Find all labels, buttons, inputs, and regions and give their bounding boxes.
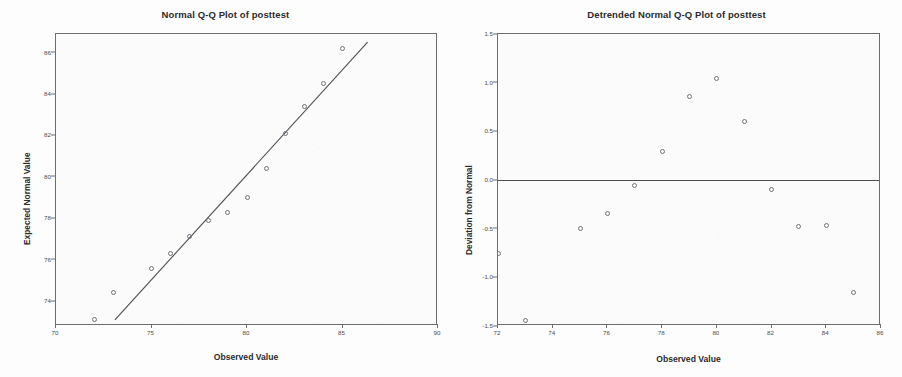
y-tick-label: -0.5	[471, 224, 493, 231]
y-tick-mark	[51, 134, 55, 135]
x-tick-label: 78	[651, 329, 671, 336]
x-tick-mark	[606, 324, 607, 328]
data-point	[851, 290, 856, 295]
y-tick-label: 86	[33, 48, 51, 55]
data-point	[283, 131, 288, 136]
y-tick-label: 80	[33, 172, 51, 179]
data-point	[523, 318, 528, 323]
chart-panel-normal-qq: Normal Q-Q Plot of posttest Expected Nor…	[0, 0, 451, 377]
data-point	[824, 223, 829, 228]
y-tick-mark	[493, 179, 497, 180]
x-tick-label: 74	[542, 329, 562, 336]
y-tick-label: 84	[33, 90, 51, 97]
y-axis-label-left: Expected Normal Value	[22, 152, 32, 245]
x-tick-mark	[342, 324, 343, 328]
x-tick-mark	[716, 324, 717, 328]
x-tick-mark	[55, 324, 56, 328]
chart-title-left: Normal Q-Q Plot of posttest	[0, 9, 451, 20]
data-point	[245, 195, 250, 200]
x-tick-mark	[661, 324, 662, 328]
y-tick-label: 0.0	[471, 176, 493, 183]
y-tick-mark	[51, 300, 55, 301]
plot-area-right	[497, 33, 880, 325]
y-tick-label: 78	[33, 214, 51, 221]
normal-fit-line	[56, 34, 436, 324]
data-point	[578, 226, 583, 231]
x-tick-label: 90	[427, 329, 447, 336]
x-tick-label: 80	[706, 329, 726, 336]
x-tick-mark	[246, 324, 247, 328]
x-tick-mark	[151, 324, 152, 328]
x-tick-mark	[552, 324, 553, 328]
x-tick-label: 70	[45, 329, 65, 336]
data-point	[796, 224, 801, 229]
x-axis-label-right: Observed Value	[497, 354, 880, 364]
y-tick-label: 0.5	[471, 127, 493, 134]
y-tick-mark	[51, 176, 55, 177]
y-tick-label: 74	[33, 297, 51, 304]
x-tick-label: 80	[236, 329, 256, 336]
plot-inner-right	[498, 34, 879, 324]
data-point	[605, 211, 610, 216]
y-tick-mark	[51, 259, 55, 260]
zero-deviation-line	[498, 180, 879, 181]
data-point	[302, 104, 307, 109]
y-tick-mark	[51, 52, 55, 53]
y-tick-label: 1.0	[471, 78, 493, 85]
data-point	[340, 46, 345, 51]
x-tick-mark	[437, 324, 438, 328]
x-tick-mark	[880, 324, 881, 328]
data-point	[769, 187, 774, 192]
y-tick-mark	[493, 276, 497, 277]
x-tick-label: 75	[141, 329, 161, 336]
x-tick-label: 72	[487, 329, 507, 336]
x-tick-mark	[825, 324, 826, 328]
y-tick-label: -1.5	[471, 322, 493, 329]
y-tick-mark	[51, 93, 55, 94]
data-point	[687, 94, 692, 99]
y-tick-label: 1.5	[471, 30, 493, 37]
chart-title-right: Detrended Normal Q-Q Plot of posttest	[451, 9, 902, 20]
data-point	[149, 266, 154, 271]
data-point	[660, 149, 665, 154]
y-tick-mark	[493, 130, 497, 131]
data-point	[498, 251, 501, 256]
data-point	[742, 119, 747, 124]
plot-inner-left	[56, 34, 436, 324]
y-tick-label: -1.0	[471, 273, 493, 280]
x-tick-label: 84	[815, 329, 835, 336]
y-tick-mark	[493, 33, 497, 34]
x-tick-mark	[771, 324, 772, 328]
x-tick-label: 82	[761, 329, 781, 336]
y-tick-label: 82	[33, 131, 51, 138]
data-point	[264, 166, 269, 171]
data-point	[92, 317, 97, 322]
chart-panel-detrended-qq: Detrended Normal Q-Q Plot of posttest De…	[451, 0, 902, 377]
data-point	[714, 76, 719, 81]
plot-area-left	[55, 33, 437, 325]
x-tick-label: 76	[596, 329, 616, 336]
y-tick-mark	[493, 82, 497, 83]
y-tick-mark	[493, 228, 497, 229]
x-tick-label: 86	[870, 329, 890, 336]
data-point	[632, 183, 637, 188]
figure-sheet: Normal Q-Q Plot of posttest Expected Nor…	[0, 0, 902, 377]
x-tick-label: 85	[332, 329, 352, 336]
x-tick-mark	[497, 324, 498, 328]
x-axis-label-left: Observed Value	[55, 352, 437, 362]
y-tick-mark	[51, 217, 55, 218]
y-tick-label: 76	[33, 255, 51, 262]
